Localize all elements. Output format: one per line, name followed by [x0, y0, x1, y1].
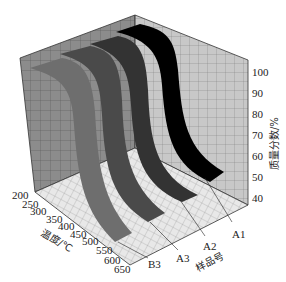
x-tick-300: 300	[30, 205, 47, 217]
z-tick-80: 80	[252, 108, 264, 120]
z-tick-90: 90	[252, 87, 264, 99]
3d-ribbon-chart: A1 A2 A3 B3 样品号 100 90 80 70 60 50 40 质量…	[0, 0, 286, 282]
tick-A2: A2	[203, 240, 216, 252]
z-axis-title: 质量分数/%	[268, 117, 280, 170]
z-tick-40: 40	[252, 192, 264, 204]
y-axis-title: 样品号	[193, 249, 225, 274]
x-tick-650: 650	[114, 263, 131, 275]
tick-B3: B3	[148, 258, 161, 270]
z-tick-70: 70	[252, 129, 264, 141]
z-tick-100: 100	[252, 66, 269, 78]
tick-A3: A3	[176, 252, 190, 264]
tick-A1: A1	[232, 228, 245, 240]
z-tick-60: 60	[252, 150, 264, 162]
z-tick-50: 50	[252, 171, 264, 183]
